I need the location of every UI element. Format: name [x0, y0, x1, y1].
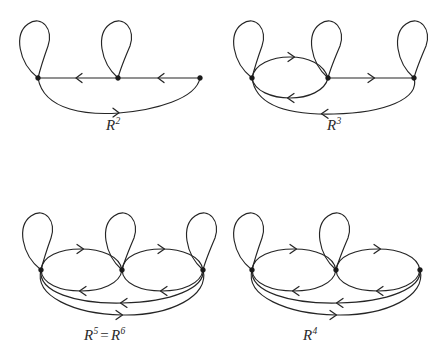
label-r5-base: R [84, 327, 93, 343]
vertex-left [39, 268, 44, 273]
edge-right-to-left-deep-arc [252, 78, 415, 114]
edge-middle-to-right-upper-arc [122, 249, 203, 270]
edge-left-to-middle-upper-arc [41, 249, 122, 270]
label-r2-base: R [106, 117, 115, 133]
vertex-right [412, 76, 417, 81]
edge-right-to-left-mid-arc [41, 270, 203, 303]
edge-right-to-middle-lower-arc [336, 270, 420, 291]
label-r4-exponent: 4 [312, 326, 317, 336]
self-loop-left [234, 21, 264, 78]
label-equals-sign: = [98, 327, 111, 343]
self-loop-left [20, 21, 50, 78]
self-loop-middle [320, 213, 350, 270]
label-r3-exponent: 3 [336, 116, 341, 126]
edge-left-to-right-deep-arc [40, 270, 204, 315]
vertex-right [201, 268, 206, 273]
label-r3: R3 [327, 117, 341, 134]
vertex-left [250, 268, 255, 273]
vertex-middle [120, 268, 125, 273]
self-loop-middle [106, 213, 136, 270]
vertex-left [36, 76, 41, 81]
graph-r5-r6 [0, 190, 224, 340]
self-loop-left [23, 213, 53, 270]
vertex-left [250, 76, 255, 81]
self-loop-middle [312, 21, 342, 78]
vertex-middle [334, 268, 339, 273]
edge-left-to-right-deep-arc [251, 270, 421, 315]
edge-left-to-right-deep-arc [38, 78, 200, 113]
graph-r2 [0, 0, 224, 130]
label-r3-base: R [327, 117, 336, 133]
label-r4: R4 [303, 327, 317, 344]
label-r5-r6: R5=R6 [84, 327, 125, 344]
vertex-right [198, 76, 203, 81]
vertex-right [418, 268, 423, 273]
self-loop-left [234, 213, 264, 270]
label-r2-exponent: 2 [115, 116, 120, 126]
label-r6-base: R [111, 327, 120, 343]
label-r6-exponent: 6 [120, 326, 125, 336]
vertex-middle [326, 76, 331, 81]
label-r2: R2 [106, 117, 120, 134]
graph-r4 [224, 190, 448, 340]
edge-middle-to-left-lower-arc [252, 270, 336, 291]
edge-middle-to-left-lower-arc [252, 78, 328, 98]
vertex-middle [116, 76, 121, 81]
self-loop-middle [102, 21, 132, 78]
edge-middle-to-right-upper-arc [336, 249, 420, 270]
figure-root: R2 R3 [0, 0, 448, 363]
edge-middle-to-left-lower-arc [41, 270, 122, 291]
self-loop-right [187, 213, 217, 270]
label-r4-base: R [303, 327, 312, 343]
self-loop-right [398, 21, 428, 78]
graph-r3 [224, 0, 448, 130]
edge-right-to-left-mid-arc [252, 270, 420, 303]
